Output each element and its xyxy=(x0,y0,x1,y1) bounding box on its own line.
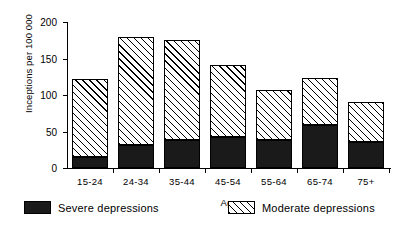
y-tick-label-100: 100 xyxy=(40,90,57,101)
x-tick-label-4: 55-64 xyxy=(261,176,287,187)
x-tick-sep-2 xyxy=(159,168,160,173)
bar-segment-severe xyxy=(210,137,246,168)
bar-45-54[interactable] xyxy=(210,65,246,168)
y-tick-0: 0 xyxy=(63,168,68,169)
bar-segment-moderate xyxy=(302,78,338,125)
x-tick-label-1: 24-34 xyxy=(123,176,149,187)
bar-segment-moderate xyxy=(118,37,154,145)
bar-segment-moderate xyxy=(72,79,108,157)
hatched-swatch-icon xyxy=(228,201,255,214)
bar-segment-severe xyxy=(118,145,154,168)
x-tick-label-0: 15-24 xyxy=(77,176,103,187)
x-tick-sep-3 xyxy=(205,168,206,173)
bar-segment-moderate xyxy=(164,40,200,140)
bar-segment-moderate xyxy=(256,90,292,140)
legend-item-moderate[interactable]: Moderate depressions xyxy=(228,201,375,214)
solid-black-swatch-icon xyxy=(24,201,51,214)
x-tick-sep-6 xyxy=(343,168,344,173)
y-tick-label-200: 200 xyxy=(40,17,57,28)
bar-segment-severe xyxy=(302,125,338,168)
y-tick-label-0: 0 xyxy=(51,163,57,174)
chart-legend: Severe depressions Moderate depressions xyxy=(0,197,415,225)
y-tick-label-150: 150 xyxy=(40,53,57,64)
x-tick-sep-5 xyxy=(297,168,298,173)
y-tick-label-50: 50 xyxy=(46,126,57,137)
legend-item-severe[interactable]: Severe depressions xyxy=(24,201,159,214)
y-tick-50: 50 xyxy=(63,132,68,133)
bar-segment-severe xyxy=(164,140,200,168)
x-tick-label-3: 45-54 xyxy=(215,176,241,187)
y-tick-150: 150 xyxy=(63,59,68,60)
x-tick-label-2: 35-44 xyxy=(169,176,195,187)
legend-label-moderate: Moderate depressions xyxy=(262,202,375,214)
chart-figure: Inceptions per 100 000 0 50 100 150 200 xyxy=(0,0,415,225)
bar-15-24[interactable] xyxy=(72,79,108,168)
x-tick-label-6: 75+ xyxy=(357,176,374,187)
y-axis-title: Inceptions per 100 000 xyxy=(23,0,34,144)
bar-segment-severe xyxy=(256,140,292,168)
x-tick-sep-7 xyxy=(389,168,390,173)
bar-segment-severe xyxy=(348,142,384,168)
bar-segment-moderate xyxy=(348,102,384,142)
bar-segment-severe xyxy=(72,157,108,168)
bar-24-34[interactable] xyxy=(118,37,154,168)
x-tick-sep-4 xyxy=(251,168,252,173)
bar-75-plus[interactable] xyxy=(348,102,384,168)
x-tick-label-5: 65-74 xyxy=(307,176,333,187)
x-tick-sep-1 xyxy=(113,168,114,173)
y-tick-100: 100 xyxy=(63,95,68,96)
bar-65-74[interactable] xyxy=(302,78,338,168)
legend-label-severe: Severe depressions xyxy=(58,202,159,214)
y-tick-200: 200 xyxy=(63,22,68,23)
bar-segment-moderate xyxy=(210,65,246,137)
bar-35-44[interactable] xyxy=(164,40,200,168)
bar-55-64[interactable] xyxy=(256,90,292,168)
plot-area: 0 50 100 150 200 xyxy=(67,22,390,168)
